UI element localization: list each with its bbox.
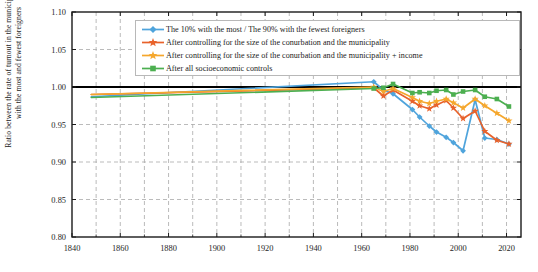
y-tick-label: 1.05 xyxy=(51,46,66,55)
x-tick-label: 1880 xyxy=(160,244,177,253)
y-tick-label: 1.00 xyxy=(51,83,66,92)
data-point-marker xyxy=(150,66,156,72)
data-point-marker xyxy=(149,51,158,59)
legend-entry[interactable]: After all socioeconomic controls xyxy=(140,62,515,75)
data-point-marker xyxy=(444,88,449,93)
legend-entry[interactable]: The 10% with the most / The 90% with the… xyxy=(140,23,515,36)
legend-label: After all socioeconomic controls xyxy=(166,62,273,75)
x-tick-label: 1960 xyxy=(353,244,370,253)
y-tick-label: 1.10 xyxy=(51,8,66,17)
data-point-marker xyxy=(461,89,466,94)
legend-label: After controlling for the size of the co… xyxy=(166,49,423,62)
x-tick-label: 2000 xyxy=(450,244,467,253)
data-point-marker xyxy=(482,135,488,141)
x-tick-label: 1920 xyxy=(257,244,274,253)
y-tick-label: 0.95 xyxy=(51,121,66,130)
data-point-marker xyxy=(410,91,415,96)
legend-marker-diamond-icon xyxy=(140,23,166,36)
legend-entry[interactable]: After controlling for the size of the co… xyxy=(140,49,515,62)
y-tick-label: 0.80 xyxy=(51,233,66,242)
data-point-marker xyxy=(371,86,376,91)
legend-label: The 10% with the most / The 90% with the… xyxy=(166,23,365,36)
data-point-marker xyxy=(427,91,432,96)
legend-label: After controlling for the size of the co… xyxy=(166,36,390,49)
data-point-marker xyxy=(434,88,439,93)
x-tick-label: 2020 xyxy=(498,244,515,253)
data-point-marker xyxy=(426,105,433,112)
data-point-marker xyxy=(451,92,456,97)
data-point-marker xyxy=(482,94,487,99)
data-point-marker xyxy=(381,85,386,90)
legend-marker-star-icon xyxy=(140,36,166,49)
data-point-marker xyxy=(150,26,157,33)
legend-marker-square-icon xyxy=(140,62,166,75)
x-tick-label: 1900 xyxy=(208,244,225,253)
data-point-marker xyxy=(495,97,500,102)
x-tick-label: 1980 xyxy=(402,244,419,253)
y-tick-label: 0.90 xyxy=(51,158,66,167)
data-point-marker xyxy=(416,102,423,109)
chart-legend: The 10% with the most / The 90% with the… xyxy=(135,20,520,76)
chart-figure: Ratio between the rate of turnout in the… xyxy=(0,0,538,272)
x-tick-label: 1860 xyxy=(112,244,129,253)
data-point-marker xyxy=(391,82,396,87)
data-point-marker xyxy=(149,38,158,46)
legend-entry[interactable]: After controlling for the size of the co… xyxy=(140,36,515,49)
data-point-marker xyxy=(507,104,512,109)
data-point-marker xyxy=(473,88,478,93)
x-tick-label: 1840 xyxy=(64,244,81,253)
data-point-marker xyxy=(417,90,422,95)
y-tick-label: 0.85 xyxy=(51,196,66,205)
legend-marker-star-icon xyxy=(140,49,166,62)
x-tick-label: 1940 xyxy=(305,244,322,253)
